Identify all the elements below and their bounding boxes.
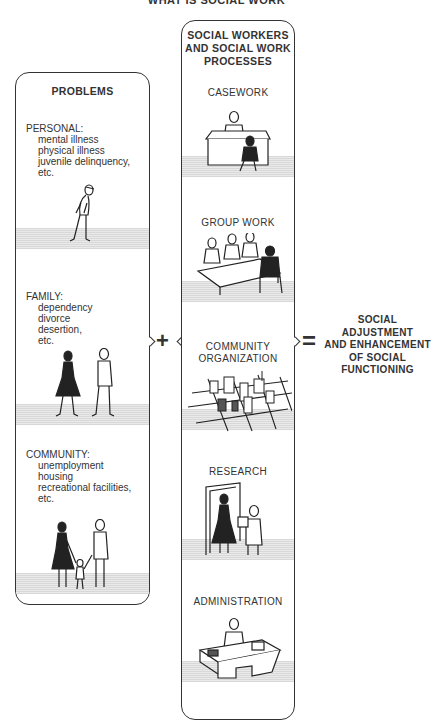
heading-line: SOCIAL WORKERS — [182, 29, 294, 42]
result-line: SOCIAL ADJUSTMENT — [322, 314, 433, 339]
problems-box: PROBLEMS PERSONAL: mental illness physic… — [15, 72, 150, 605]
process-administration-label: ADMINISTRATION — [182, 596, 294, 608]
plus-sign: + — [156, 328, 169, 354]
processes-box: SOCIAL WORKERS AND SOCIAL WORK PROCESSES… — [181, 20, 295, 720]
heading-line: AND SOCIAL WORK — [182, 42, 294, 55]
couple-walking-apart-illustration — [54, 348, 124, 423]
category-name: FAMILY: — [26, 291, 93, 302]
process-community-organization-label: COMMUNITY ORGANIZATION — [182, 341, 294, 365]
category-item: unemployment — [26, 460, 131, 471]
category-item: physical illness — [26, 145, 130, 156]
result-line: OF SOCIAL — [322, 352, 433, 365]
category-personal: PERSONAL: mental illness physical illnes… — [26, 123, 130, 178]
category-item: desertion, — [26, 324, 93, 335]
category-item: dependency — [26, 302, 93, 313]
category-item: juvenile delinquency, — [26, 156, 130, 167]
family-with-child-illustration — [50, 519, 120, 594]
category-item: recreational facilities, — [26, 482, 131, 493]
category-family: FAMILY: dependency divorce desertion, et… — [26, 291, 93, 346]
heading-line: PROCESSES — [182, 55, 294, 68]
result-text: SOCIAL ADJUSTMENT AND ENHANCEMENT OF SOC… — [322, 314, 433, 377]
administrator-at-desk-illustration — [196, 616, 284, 684]
category-name: COMMUNITY: — [26, 449, 131, 460]
group-at-table-illustration — [190, 233, 290, 298]
result-line: FUNCTIONING — [322, 364, 433, 377]
walking-man-illustration — [64, 183, 104, 248]
problems-heading: PROBLEMS — [16, 85, 149, 98]
category-item: etc. — [26, 167, 130, 178]
category-item: etc. — [26, 493, 131, 504]
label-line: ORGANIZATION — [182, 353, 294, 365]
process-casework-label: CASEWORK — [182, 87, 294, 99]
caseworker-at-desk-illustration — [204, 109, 274, 174]
category-item: divorce — [26, 313, 93, 324]
category-item: etc. — [26, 335, 93, 346]
process-research-label: RESEARCH — [182, 466, 294, 478]
processes-heading: SOCIAL WORKERS AND SOCIAL WORK PROCESSES — [182, 29, 294, 68]
label-line: COMMUNITY — [182, 341, 294, 353]
result-line: AND ENHANCEMENT — [322, 339, 433, 352]
diagram-title: WHAT IS SOCIAL WORK — [0, 0, 433, 6]
process-group-work-label: GROUP WORK — [182, 217, 294, 229]
category-community: COMMUNITY: unemployment housing recreati… — [26, 449, 131, 504]
equals-sign: = — [302, 327, 315, 355]
category-name: PERSONAL: — [26, 123, 130, 134]
city-grid-illustration — [188, 371, 292, 433]
category-item: mental illness — [26, 134, 130, 145]
category-item: housing — [26, 471, 131, 482]
researcher-at-door-illustration — [200, 481, 280, 559]
